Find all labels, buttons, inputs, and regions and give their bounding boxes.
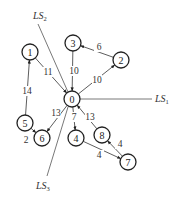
- node-8: 8: [94, 127, 110, 143]
- node-2: 2: [113, 52, 129, 68]
- edge-weight-label: 2: [24, 135, 29, 145]
- graph-svg: LS1LS2LS3 11101061421371344 012345678: [0, 0, 182, 204]
- node-7: 7: [120, 154, 136, 170]
- edge-weight-label: 6: [97, 42, 102, 52]
- edge-weight-label: 14: [22, 86, 32, 96]
- node-3: 3: [65, 35, 81, 51]
- ls3-label: LS3: [35, 180, 50, 192]
- node-4: 4: [68, 130, 84, 146]
- ls2-label: LS2: [32, 10, 47, 22]
- edge-weight-label: 7: [72, 112, 77, 122]
- ls2-line: [38, 24, 68, 92]
- node-label: 0: [70, 94, 75, 105]
- edge-weight-label: 13: [85, 112, 95, 122]
- edge-weight-label: 10: [69, 66, 79, 76]
- node-label: 3: [71, 38, 76, 49]
- node-label: 2: [119, 55, 124, 66]
- node-5: 5: [17, 115, 33, 131]
- nodes: 012345678: [17, 35, 136, 170]
- edge-weight-label: 13: [51, 108, 61, 118]
- edge-5-6: [31, 128, 36, 132]
- node-1: 1: [22, 44, 38, 60]
- reference-lines: LS1LS2LS3: [32, 10, 169, 192]
- edge-weight-label: 4: [97, 150, 102, 160]
- node-label: 1: [28, 47, 33, 58]
- edge-weight-label: 4: [118, 139, 123, 149]
- node-0: 0: [64, 91, 80, 107]
- edge-weight-label: 11: [43, 67, 52, 77]
- node-label: 6: [40, 133, 45, 144]
- node-label: 4: [74, 133, 79, 144]
- node-label: 8: [100, 130, 105, 141]
- graph-diagram: LS1LS2LS3 11101061421371344 012345678: [0, 0, 182, 204]
- node-label: 7: [126, 157, 131, 168]
- node-label: 5: [23, 118, 28, 129]
- edge-weight-label: 10: [92, 75, 102, 85]
- ls1-label: LS1: [154, 93, 169, 105]
- node-6: 6: [34, 130, 50, 146]
